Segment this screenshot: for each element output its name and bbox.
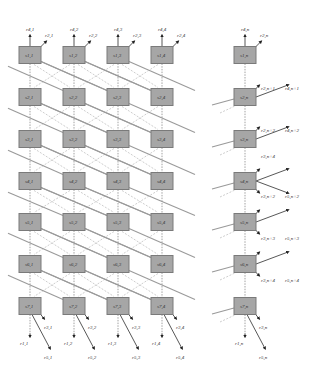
node: s2,1 [19, 89, 41, 106]
long-arrow [247, 315, 265, 349]
top-label-up: r4,3 [114, 27, 123, 33]
node: s1,3 [107, 47, 129, 64]
bottom-label-down: r1,n [235, 341, 244, 347]
top-label-up: r4,n [241, 27, 250, 33]
side-label-b: r5,n+3 [285, 236, 300, 242]
node: s5,n [234, 214, 256, 231]
side-long-arrow [256, 169, 288, 181]
top-label-diag: r2,4 [177, 33, 186, 39]
cross-link [8, 275, 63, 299]
bottom-label-short: r3,2 [88, 325, 97, 331]
incoming-link [212, 99, 234, 105]
node: s6,3 [107, 256, 129, 273]
node: s5,4 [151, 214, 173, 231]
incoming-link [220, 106, 236, 114]
incoming-link [220, 231, 236, 239]
top-label-diag: r2,3 [133, 33, 142, 39]
incoming-link [220, 190, 236, 198]
node: s7,4 [151, 298, 173, 315]
node: s2,2 [63, 89, 85, 106]
side-label-a: r2,n+2 [261, 128, 276, 134]
incoming-link [220, 273, 236, 281]
bottom-label-long: r5,4 [176, 355, 185, 361]
top-label-up: r4,2 [70, 27, 79, 33]
node: s3,n [234, 131, 256, 148]
node: s6,1 [19, 256, 41, 273]
node: s2,4 [151, 89, 173, 106]
long-arrow [32, 315, 50, 349]
node: s1,1 [19, 47, 41, 64]
bottom-label-short: r3,4 [176, 325, 185, 331]
node: s4,3 [107, 173, 129, 190]
top-label-diag: r2,n [260, 33, 269, 39]
node: s5,3 [107, 214, 129, 231]
side-label-b: r4,n+1 [285, 86, 299, 92]
cross-link [8, 233, 63, 257]
network-diagram: s1,1s1,2s1,3s1,4s2,1s2,2s2,3s2,4s3,1s3,2… [0, 0, 313, 380]
top-label-diag: r2,1 [45, 33, 53, 39]
incoming-link [220, 315, 236, 323]
cross-link [8, 150, 63, 174]
bottom-label-down: r1,2 [64, 341, 73, 347]
node: s4,2 [63, 173, 85, 190]
side-label-b: r5,n+4 [285, 278, 300, 284]
bottom-label-long: r5,n [259, 355, 268, 361]
node: s7,3 [107, 298, 129, 315]
long-arrow [120, 315, 138, 349]
side-long-arrow [256, 210, 288, 222]
node: s7,1 [19, 298, 41, 315]
node: s3,4 [151, 131, 173, 148]
node: s1,4 [151, 47, 173, 64]
bottom-label-down: r1,3 [108, 341, 117, 347]
bottom-label-long: r5,2 [88, 355, 97, 361]
incoming-link [212, 183, 234, 189]
node: s2,n [234, 89, 256, 106]
node: s4,1 [19, 173, 41, 190]
top-label-up: r4,1 [26, 27, 34, 33]
cross-link [8, 66, 63, 90]
node: s6,2 [63, 256, 85, 273]
side-long-arrow [256, 181, 288, 193]
long-arrow [76, 315, 94, 349]
node: s3,1 [19, 131, 41, 148]
node: s7,n [234, 298, 256, 315]
side-long-arrow [256, 252, 288, 264]
node: s4,4 [151, 173, 173, 190]
side-label-a: r3,n+4 [261, 278, 276, 284]
bottom-label-short: r3,1 [44, 325, 52, 331]
node: s3,2 [63, 131, 85, 148]
node: s3,3 [107, 131, 129, 148]
incoming-link [212, 266, 234, 272]
incoming-link [212, 308, 234, 314]
bottom-label-down: r1,4 [152, 341, 161, 347]
node: s7,2 [63, 298, 85, 315]
incoming-link [212, 141, 234, 147]
top-label-diag: r2,2 [89, 33, 98, 39]
node: s6,4 [151, 256, 173, 273]
node: s1,n [234, 47, 256, 64]
bottom-label-long: r5,1 [44, 355, 52, 361]
node: s6,n [234, 256, 256, 273]
cross-link [8, 192, 63, 215]
bottom-label-short: r3,n [259, 325, 268, 331]
cross-link [8, 108, 63, 132]
node: s2,3 [107, 89, 129, 106]
node: s4,n [234, 173, 256, 190]
node: s1,2 [63, 47, 85, 64]
side-label-b: r5,n+2 [285, 194, 300, 200]
long-arrow [164, 315, 182, 349]
bottom-label-long: r5,3 [132, 355, 141, 361]
side-label-a: r3,n+2 [261, 194, 276, 200]
incoming-link [212, 224, 234, 230]
node: s5,2 [63, 214, 85, 231]
side-label-a: r3,n+3 [261, 236, 276, 242]
bottom-label-short: r3,3 [132, 325, 141, 331]
node: s5,1 [19, 214, 41, 231]
bottom-label-down: r1,1 [20, 341, 28, 347]
top-label-up: r4,4 [158, 27, 167, 33]
incoming-link [220, 148, 236, 156]
side-label-a: r3,n+4 [261, 154, 276, 160]
side-label-b: r4,n+2 [285, 128, 300, 134]
